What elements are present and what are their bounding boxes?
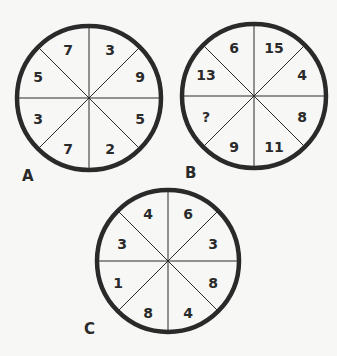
wheel-b-segment-8: 13: [196, 67, 215, 83]
wheel-a-label: A: [22, 167, 34, 185]
wheel-a-segment-1: 7: [63, 42, 73, 58]
wheel-a-segment-2: 3: [105, 42, 115, 58]
wheel-c-segment-2: 6: [183, 206, 193, 222]
puzzle-canvas: 7 3 9 5 2 7 3 5 A 6 15 4 8 11 9 ? 13 B 4…: [0, 0, 337, 356]
wheel-c-segment-1: 4: [143, 206, 153, 222]
wheel-b-segment-7-unknown: ?: [202, 109, 210, 125]
wheel-a: 7 3 9 5 2 7 3 5 A: [17, 26, 161, 185]
wheel-a-segment-7: 3: [33, 111, 43, 127]
wheel-c: 4 6 3 8 4 8 1 3 C: [84, 190, 239, 338]
wheel-c-segment-6: 8: [143, 305, 153, 321]
wheel-a-segment-5: 2: [105, 141, 115, 157]
wheel-b-segment-6: 9: [229, 139, 239, 155]
wheel-b-segment-5: 11: [264, 139, 283, 155]
wheel-a-segment-8: 5: [33, 69, 43, 85]
wheel-a-segment-4: 5: [135, 111, 145, 127]
wheel-c-segment-7: 1: [113, 275, 123, 291]
wheel-c-segment-4: 8: [208, 275, 218, 291]
wheel-b-segment-4: 8: [297, 109, 307, 125]
wheel-c-segment-3: 3: [208, 236, 218, 252]
wheel-c-label: C: [84, 320, 95, 338]
wheel-c-segment-5: 4: [183, 305, 193, 321]
wheel-b-segment-2: 15: [264, 40, 283, 56]
wheel-a-segment-3: 9: [135, 69, 145, 85]
wheel-b-segment-3: 4: [297, 67, 307, 83]
wheel-b-label: B: [185, 164, 196, 182]
wheel-b-segment-1: 6: [229, 40, 239, 56]
wheel-b: 6 15 4 8 11 9 ? 13 B: [182, 24, 326, 182]
wheel-a-segment-6: 7: [63, 141, 73, 157]
wheel-c-segment-8: 3: [117, 236, 127, 252]
